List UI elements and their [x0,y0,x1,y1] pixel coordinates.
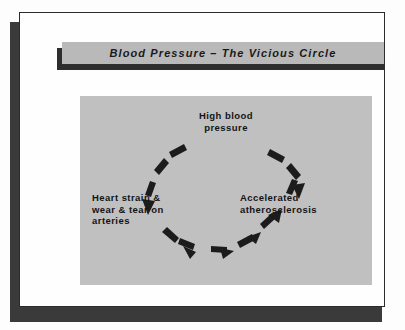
slide-page: Blood Pressure – The Vicious Circle [19,12,385,307]
slide-screenshot: Blood Pressure – The Vicious Circle [0,0,405,330]
node-high-blood-pressure: High blood pressure [166,110,286,133]
node-heart-strain: Heart strain & wear & tear on arteries [92,192,164,227]
arrow-left-to-right-icon [162,209,282,259]
page-title: Blood Pressure – The Vicious Circle [110,47,337,59]
vicious-circle-diagram: High blood pressure Heart strain & wear … [80,96,372,285]
node-accelerated-atherosclerosis: Accelerated atherosclerosis [240,192,317,215]
title-band: Blood Pressure – The Vicious Circle [62,42,384,64]
